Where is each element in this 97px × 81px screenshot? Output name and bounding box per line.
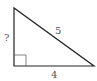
vertical-leg-label: ? bbox=[4, 32, 9, 43]
right-angle-marker bbox=[14, 55, 26, 66]
triangle-diagram: ? 5 4 bbox=[0, 0, 97, 81]
hypotenuse-label: 5 bbox=[55, 25, 61, 36]
horizontal-leg-label: 4 bbox=[51, 69, 57, 80]
